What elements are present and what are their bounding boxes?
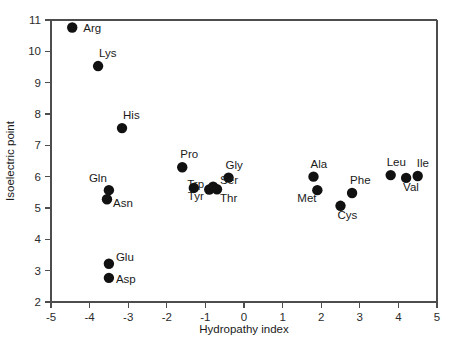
data-point-marker xyxy=(104,185,114,195)
y-tick-label: 8 xyxy=(35,108,41,120)
x-tick-label: 4 xyxy=(395,311,402,323)
data-point-marker xyxy=(347,188,357,198)
x-tick-label: 5 xyxy=(434,311,440,323)
y-tick-label: 10 xyxy=(28,45,41,57)
data-point-label: Gly xyxy=(226,159,244,171)
data-points-group: ArgLysHisGlnAsnGluAspProGlyTrpSerTyrThrA… xyxy=(67,22,429,285)
data-point-marker xyxy=(308,171,318,181)
data-point-label: Tyr xyxy=(188,190,204,202)
x-tick-label: -4 xyxy=(84,311,95,323)
y-tick-label: 11 xyxy=(29,14,41,26)
y-tick-label: 5 xyxy=(35,202,41,214)
y-tick-label: 6 xyxy=(35,171,41,183)
data-point-marker xyxy=(177,162,187,172)
data-point-marker xyxy=(67,22,77,32)
x-tick-label: -1 xyxy=(200,311,210,323)
data-point-label: Phe xyxy=(350,174,370,186)
x-tick-label: 0 xyxy=(241,311,247,323)
data-point-marker xyxy=(102,194,112,204)
data-point-label: Ser xyxy=(220,174,238,186)
y-axis-title: Isoelectric point xyxy=(4,120,16,201)
y-tick-label: 3 xyxy=(35,265,41,277)
data-point-label: Pro xyxy=(180,148,198,160)
data-point-marker xyxy=(104,273,114,283)
x-tick-label: -5 xyxy=(46,311,56,323)
y-tick-label: 7 xyxy=(35,139,41,151)
data-point-marker xyxy=(93,61,103,71)
x-tick-label: 3 xyxy=(357,311,363,323)
x-tick-label: -3 xyxy=(123,311,133,323)
data-point-label: Ile xyxy=(417,157,429,169)
data-point-label: Thr xyxy=(220,192,237,204)
data-point-label: Val xyxy=(403,181,419,193)
scatter-plot-figure: -5-4-3-2-1012345 234567891011 ArgLysHisG… xyxy=(0,0,451,349)
y-axis-ticks: 234567891011 xyxy=(28,14,51,308)
data-point-label: Glu xyxy=(116,251,134,263)
y-tick-label: 4 xyxy=(35,233,42,245)
data-point-label: Lys xyxy=(99,47,117,59)
y-tick-label: 2 xyxy=(35,296,41,308)
data-point-marker xyxy=(385,170,395,180)
data-point-marker xyxy=(117,123,127,133)
data-point-label: Asn xyxy=(113,197,133,209)
x-axis-ticks: -5-4-3-2-1012345 xyxy=(46,302,440,323)
data-point-label: Arg xyxy=(83,22,101,34)
x-axis-title: Hydropathy index xyxy=(199,323,289,335)
x-tick-label: 1 xyxy=(279,311,285,323)
y-tick-label: 9 xyxy=(35,77,41,89)
data-point-label: Gln xyxy=(89,172,107,184)
data-point-label: His xyxy=(123,109,140,121)
data-point-label: Ala xyxy=(310,158,327,170)
x-tick-label: -2 xyxy=(162,311,172,323)
data-point-label: Leu xyxy=(387,156,406,168)
data-point-label: Cys xyxy=(338,209,358,221)
data-point-label: Met xyxy=(297,192,317,204)
data-point-marker xyxy=(104,259,114,269)
data-point-marker xyxy=(413,171,423,181)
data-point-label: Asp xyxy=(116,273,136,285)
x-tick-label: 2 xyxy=(318,311,324,323)
